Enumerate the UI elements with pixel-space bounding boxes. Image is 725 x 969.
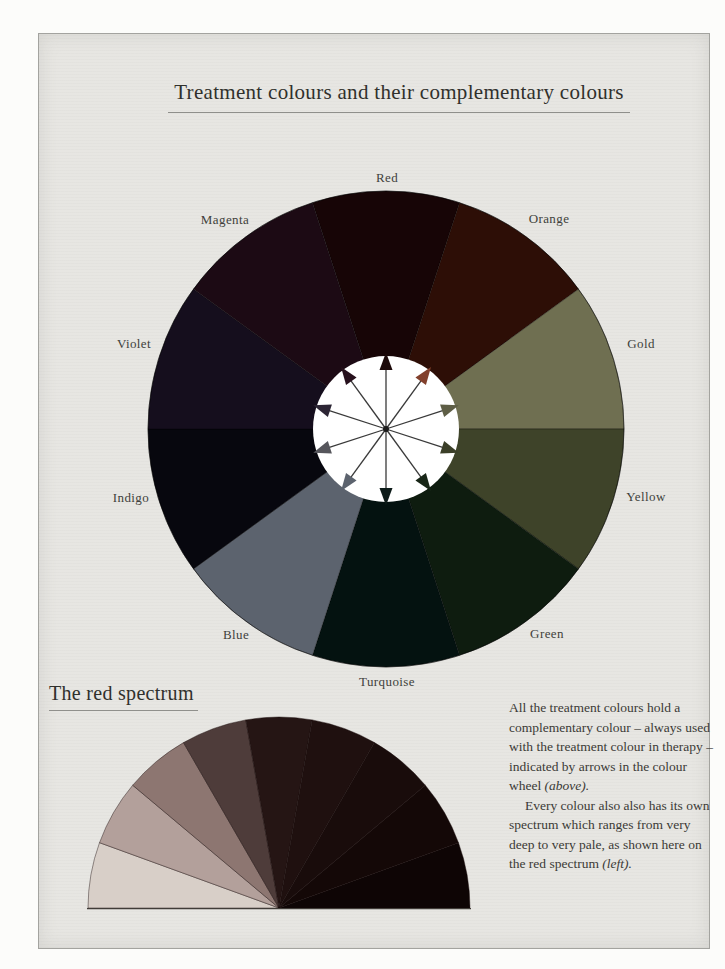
wheel-label-green: Green xyxy=(530,626,564,642)
red-spectrum-fan xyxy=(85,715,473,912)
wheel-label-magenta: Magenta xyxy=(201,212,249,228)
wheel-label-yellow: Yellow xyxy=(626,489,665,505)
note-paragraph-1: All the treatment colours hold a complem… xyxy=(509,698,715,796)
page-sheet: Treatment colours and their complementar… xyxy=(38,33,710,949)
note-paragraph-1-caption-ref: (above). xyxy=(545,778,590,793)
wheel-label-red: Red xyxy=(376,170,398,186)
wheel-label-blue: Blue xyxy=(223,627,249,643)
note-paragraph-2: Every colour also also has its own spect… xyxy=(509,796,715,874)
wheel-label-turquoise: Turquoise xyxy=(359,674,415,690)
note-paragraph-2-caption-ref: (left). xyxy=(602,856,632,871)
wheel-label-orange: Orange xyxy=(529,211,570,227)
wheel-label-indigo: Indigo xyxy=(113,490,149,506)
wheel-label-violet: Violet xyxy=(117,336,151,352)
wheel-center-dot xyxy=(383,426,389,432)
page-title-wrap: Treatment colours and their complementar… xyxy=(89,80,709,113)
spectrum-heading: The red spectrum xyxy=(49,682,198,711)
note-paragraph-1-main: All the treatment colours hold a complem… xyxy=(509,700,713,793)
note-text: All the treatment colours hold a complem… xyxy=(509,698,715,874)
colour-wheel xyxy=(146,189,626,669)
wheel-label-gold: Gold xyxy=(627,336,655,352)
page-title: Treatment colours and their complementar… xyxy=(168,80,630,113)
